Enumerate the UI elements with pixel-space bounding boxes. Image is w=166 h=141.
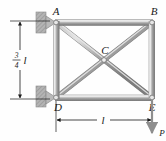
support-wall-block-d <box>36 86 46 107</box>
truss-diagram-figure: A B C D E 3 4 l l P <box>0 0 166 141</box>
horizontal-dimension: l <box>56 101 152 132</box>
member-D-E <box>55 95 153 101</box>
truss-diagram-svg: A B C D E 3 4 l l P <box>0 0 166 141</box>
joint-e <box>150 95 155 100</box>
horizontal-dimension-label: l <box>101 114 104 126</box>
member-A-D <box>53 21 59 99</box>
fraction-denominator: 4 <box>15 61 19 70</box>
node-label-c: C <box>101 44 109 56</box>
node-label-d: D <box>53 101 62 113</box>
joint-d <box>54 95 59 100</box>
member-A-B <box>55 20 153 26</box>
node-label-a: A <box>52 5 60 17</box>
node-label-b: B <box>151 5 158 17</box>
joint-a <box>54 20 59 25</box>
pin-support-D <box>36 86 56 107</box>
vertical-dimension-unit: l <box>23 54 26 66</box>
load-label: P <box>158 128 165 138</box>
joint-b <box>150 20 155 25</box>
member-B-E <box>149 21 155 99</box>
joint-c <box>102 58 107 63</box>
support-wall-block-a <box>36 12 46 33</box>
fraction-numerator: 3 <box>14 51 19 60</box>
